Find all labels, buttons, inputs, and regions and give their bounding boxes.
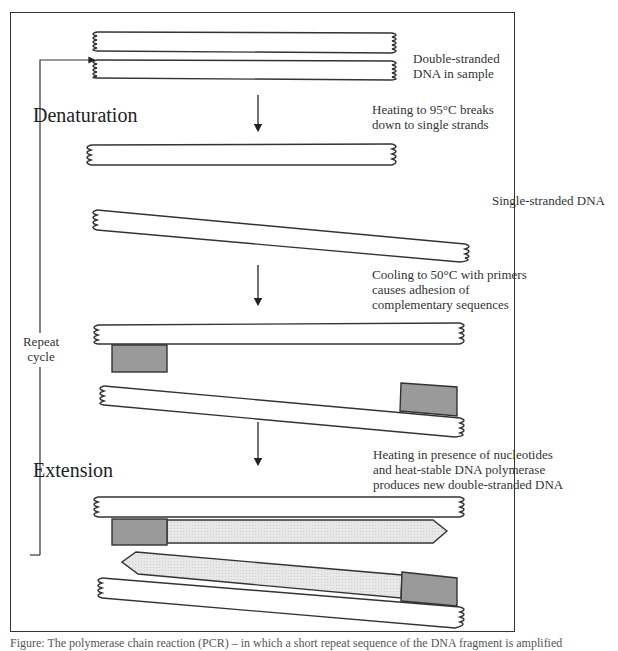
dna-annealing [94, 323, 464, 437]
primer-block-top [112, 345, 167, 372]
label-heating-95: Heating to 95°C breaksdown to single str… [372, 102, 494, 132]
figure-caption: Figure: The polymerase chain reaction (P… [10, 636, 562, 651]
label-heating-nucleotides: Heating in presence of nucleotidesand he… [373, 447, 563, 492]
label-repeat-cycle: Repeatcycle [22, 334, 60, 364]
heading-denaturation: Denaturation [33, 104, 137, 127]
primer-block-ext-bottom [401, 572, 457, 606]
dna-double-strand-sample [93, 32, 396, 80]
label-sample: Double-strandedDNA in sample [413, 51, 500, 81]
label-cooling-50: Cooling to 50°C with primerscauses adhes… [372, 267, 527, 312]
primer-block-ext-top [112, 519, 167, 545]
new-strand-top [167, 520, 447, 543]
primer-block-bottom [400, 383, 457, 416]
label-single-stranded: Single-stranded DNA [492, 193, 605, 208]
heading-extension: Extension [33, 459, 113, 482]
dna-single-strands [87, 144, 469, 262]
